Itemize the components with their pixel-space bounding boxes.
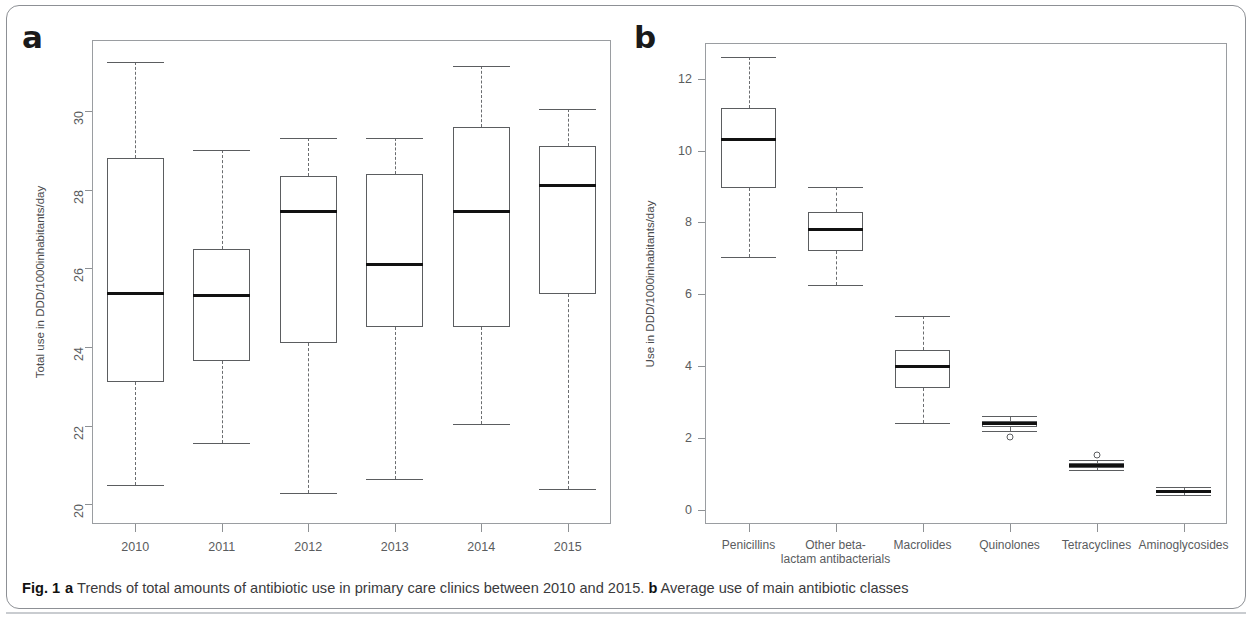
median-line	[280, 210, 337, 213]
y-tick-label: 6	[658, 287, 692, 301]
whisker-cap-lower	[1069, 470, 1124, 471]
box-iqr	[280, 176, 337, 343]
box-iqr	[721, 108, 776, 189]
x-tick-label-line: 2013	[381, 540, 409, 554]
y-tick-label: 28	[72, 190, 86, 224]
whisker-upper	[749, 57, 750, 107]
whisker-cap-lower	[453, 424, 510, 425]
bottom-divider	[6, 612, 1246, 614]
x-tick-mark	[222, 524, 223, 532]
median-line	[721, 138, 776, 141]
x-tick-mark	[308, 524, 309, 532]
median-line	[366, 263, 423, 266]
y-tick-mark	[85, 504, 92, 505]
whisker-cap-upper	[453, 66, 510, 67]
x-tick-label-line: Penicillins	[722, 538, 775, 552]
y-tick-mark	[698, 79, 705, 80]
whisker-lower	[749, 188, 750, 256]
whisker-cap-lower	[895, 423, 950, 424]
x-tick-mark	[1097, 524, 1098, 532]
box-iqr	[539, 146, 596, 294]
whisker-cap-upper	[1069, 460, 1124, 461]
whisker-upper	[222, 150, 223, 248]
x-tick-label-line: 2012	[294, 540, 322, 554]
median-line	[895, 365, 950, 368]
whisker-cap-upper	[895, 316, 950, 317]
whisker-cap-upper	[721, 57, 776, 58]
whisker-lower	[308, 343, 309, 493]
whisker-cap-lower	[808, 285, 863, 286]
x-tick-label-line: Other beta-	[781, 538, 890, 552]
x-tick-mark	[135, 524, 136, 532]
x-tick-label: Penicillins	[722, 538, 775, 552]
y-tick-label: 8	[658, 215, 692, 229]
median-line	[539, 184, 596, 187]
y-tick-mark	[698, 294, 705, 295]
median-line	[1069, 464, 1124, 467]
median-line	[1156, 490, 1211, 493]
x-tick-mark	[1010, 524, 1011, 532]
box-iqr	[895, 350, 950, 388]
x-tick-label-line: Tetracyclines	[1062, 538, 1131, 552]
whisker-cap-upper	[280, 138, 337, 139]
whisker-cap-lower	[1156, 495, 1211, 496]
y-tick-mark	[85, 111, 92, 112]
whisker-cap-upper	[982, 416, 1037, 417]
whisker-cap-lower	[107, 485, 164, 486]
outlier-point	[1006, 433, 1013, 440]
y-tick-label: 20	[72, 504, 86, 538]
x-tick-label-line: 2011	[208, 540, 235, 554]
outlier-point	[1093, 452, 1100, 459]
y-tick-mark	[698, 438, 705, 439]
whisker-cap-upper	[366, 138, 423, 139]
panel-a: a Total use in DDD/1000inhabitants/day 2…	[0, 0, 626, 570]
whisker-lower	[568, 294, 569, 489]
y-tick-label: 10	[658, 144, 692, 158]
whisker-lower	[395, 327, 396, 478]
x-tick-label: 2015	[554, 540, 582, 554]
x-tick-mark	[481, 524, 482, 532]
x-tick-label: Macrolides	[893, 538, 951, 552]
y-tick-label: 30	[72, 111, 86, 145]
whisker-cap-upper	[539, 109, 596, 110]
x-tick-label-line: 2015	[554, 540, 582, 554]
caption-text-a: Trends of total amounts of antibiotic us…	[73, 580, 648, 596]
x-tick-label-line: Quinolones	[979, 538, 1040, 552]
whisker-upper	[308, 138, 309, 175]
median-line	[982, 422, 1037, 425]
whisker-cap-lower	[539, 489, 596, 490]
x-tick-label: 2014	[467, 540, 495, 554]
whisker-cap-lower	[982, 431, 1037, 432]
y-tick-mark	[85, 347, 92, 348]
median-line	[808, 228, 863, 231]
x-tick-label-line: 2014	[467, 540, 495, 554]
whisker-upper	[481, 66, 482, 127]
whisker-upper	[836, 187, 837, 212]
y-tick-mark	[698, 510, 705, 511]
x-tick-label: 2011	[208, 540, 235, 554]
x-tick-mark	[1184, 524, 1185, 532]
whisker-cap-upper	[1156, 487, 1211, 488]
caption-figure-number: Fig. 1	[22, 580, 60, 596]
figure-root: a Total use in DDD/1000inhabitants/day 2…	[0, 0, 1252, 619]
x-tick-mark	[923, 524, 924, 532]
whisker-cap-lower	[721, 257, 776, 258]
whisker-cap-upper	[193, 150, 250, 151]
y-tick-label: 22	[72, 426, 86, 460]
panel-a-plot-area	[92, 40, 611, 524]
x-tick-label: Quinolones	[979, 538, 1040, 552]
x-tick-label-line: Macrolides	[893, 538, 951, 552]
whisker-cap-upper	[107, 62, 164, 63]
panel-b: b Use in DDD/1000inhabitants/day 0246810…	[626, 0, 1252, 570]
y-tick-mark	[698, 151, 705, 152]
x-tick-label: Other beta-lactam antibacterials	[781, 538, 890, 566]
x-tick-mark	[568, 524, 569, 532]
whisker-lower	[481, 327, 482, 423]
x-tick-label: 2012	[294, 540, 322, 554]
whisker-lower	[222, 361, 223, 444]
caption-marker-b: b	[648, 580, 657, 596]
x-tick-label: 2013	[381, 540, 409, 554]
median-line	[453, 210, 510, 213]
whisker-cap-lower	[366, 479, 423, 480]
whisker-upper	[135, 62, 136, 158]
